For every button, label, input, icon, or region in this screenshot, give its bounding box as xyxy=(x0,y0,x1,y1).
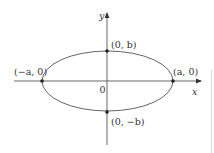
y-axis-label: y xyxy=(98,10,105,21)
point-right-vertex xyxy=(171,79,175,83)
origin-label: 0 xyxy=(100,84,106,95)
x-axis-label: x xyxy=(192,86,198,97)
label-right-vertex: (a, 0) xyxy=(173,66,198,77)
label-top-covertex: (0, b) xyxy=(111,39,137,50)
ellipse-diagram: y x 0 (0, b) (−a, 0) (a, 0) (0, −b) xyxy=(0,0,214,153)
point-left-vertex xyxy=(40,79,44,83)
point-top-covertex xyxy=(105,49,109,53)
point-bottom-covertex xyxy=(105,110,109,114)
label-bottom-covertex: (0, −b) xyxy=(111,116,145,127)
label-left-vertex: (−a, 0) xyxy=(14,66,47,77)
